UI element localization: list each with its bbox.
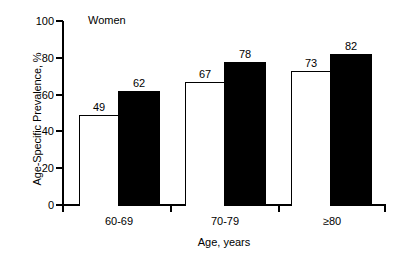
x-category-label-60-69: 60-69 [79, 215, 159, 227]
bar-open-70-79 [185, 82, 225, 206]
y-tick-label-40: 40 [26, 126, 54, 136]
y-tick-label-80: 80 [26, 53, 54, 63]
x-axis-title: Age, years [62, 236, 386, 248]
y-tick-label-0: 0 [26, 200, 54, 210]
y-axis-title: Age-Specific Prevalence, % [31, 19, 43, 219]
y-tick-label-20: 20 [26, 163, 54, 173]
bar-value-open-70-79: 67 [185, 68, 225, 80]
x-tickmark-end [384, 206, 386, 212]
bar-value-open-80plus: 73 [291, 57, 331, 69]
bar-value-filled-80plus: 82 [330, 40, 372, 52]
y-tick-label-100: 100 [26, 16, 54, 26]
bar-open-60-69 [79, 115, 119, 206]
x-tickmark-2 [278, 206, 280, 212]
x-category-label-80plus: ≥80 [292, 215, 372, 227]
bar-value-filled-70-79: 78 [224, 48, 266, 60]
bar-filled-60-69 [118, 91, 160, 206]
bar-filled-80plus [330, 54, 372, 206]
x-tickmark-start [62, 206, 64, 212]
x-tickmark-1 [170, 206, 172, 212]
x-category-label-70-79: 70-79 [185, 215, 265, 227]
bar-value-open-60-69: 49 [79, 101, 119, 113]
bar-filled-70-79 [224, 62, 266, 206]
bar-open-80plus [291, 71, 331, 206]
bar-value-filled-60-69: 62 [118, 77, 160, 89]
chart-figure: Age-Specific Prevalence, % 100 80 60 40 … [0, 0, 407, 263]
y-tick-label-60: 60 [26, 90, 54, 100]
plot-area: 49 62 67 78 73 82 [62, 21, 386, 206]
